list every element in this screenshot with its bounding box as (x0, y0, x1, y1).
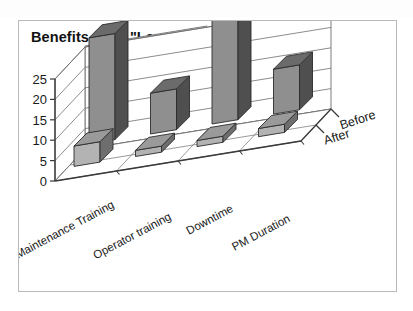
y-tick-label-15: 15 (33, 113, 47, 128)
bar-before-maintenance-training (89, 21, 128, 144)
chart-card: Benefits from "Lean Machines" (18, 20, 397, 292)
page-background-top (0, 0, 413, 18)
y-tick-label-20: 20 (33, 92, 47, 107)
y-tick-label-0: 0 (40, 174, 47, 189)
category-label-pm-duration: PM Duration (230, 212, 292, 253)
bar-chart-3d: 0 5 10 15 20 25 (19, 21, 398, 293)
y-tick-label-5: 5 (40, 154, 47, 169)
category-label-operator-training: Operator training (91, 210, 173, 261)
bar-before-downtime (212, 21, 251, 124)
y-tick-label-10: 10 (33, 133, 47, 148)
y-tick-label-25: 25 (33, 72, 47, 87)
y-tick-marks (50, 79, 55, 181)
depth-label-after: After (322, 126, 351, 147)
category-label-downtime: Downtime (184, 202, 235, 237)
